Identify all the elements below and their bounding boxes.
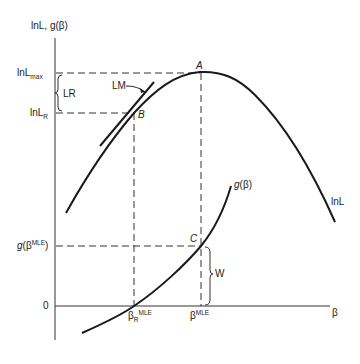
x-axis-label: β xyxy=(332,308,338,318)
lm-label: LM xyxy=(112,81,126,91)
w-text: W xyxy=(215,268,224,279)
lm-tangent-line xyxy=(100,82,154,146)
lr-label: LR xyxy=(63,89,76,99)
point-c-label: C xyxy=(190,234,197,244)
lnl-max-sub: max xyxy=(30,73,42,80)
lnl-curve-label-text: lnL xyxy=(331,196,344,207)
g-mle-post: ) xyxy=(45,240,48,251)
point-a-text: A xyxy=(196,60,203,71)
g-curve-label: g(β) xyxy=(234,180,252,190)
test-statistics-diagram xyxy=(0,0,360,364)
point-c-text: C xyxy=(190,233,197,244)
g-mle-label: g(βMLE) xyxy=(17,240,48,251)
lnl-curve-label: lnL xyxy=(331,197,344,207)
zero-label: 0 xyxy=(43,301,49,311)
point-b-label: B xyxy=(138,110,145,120)
lnl-max-base: lnL xyxy=(17,67,30,78)
w-label: W xyxy=(215,269,224,279)
y-axis-label: lnL, g(β) xyxy=(31,21,68,31)
beta-r-mle-sub: R xyxy=(134,316,139,323)
lm-text: LM xyxy=(112,80,126,91)
lnl-r-label: lnLR xyxy=(30,108,48,121)
lnl-r-sub: R xyxy=(43,113,48,120)
point-a-label: A xyxy=(196,61,203,71)
beta-mle-sup: MLE xyxy=(196,309,209,316)
beta-r-mle-label: βRMLE xyxy=(128,310,152,324)
point-b-text: B xyxy=(138,109,145,120)
lr-brace xyxy=(55,75,62,111)
zero-text: 0 xyxy=(43,300,49,311)
g-curve-label-post: (β) xyxy=(240,179,252,190)
beta-mle-label: βMLE xyxy=(190,310,209,321)
g-mle-sup: MLE xyxy=(32,239,45,246)
x-axis-label-text: β xyxy=(332,307,338,318)
w-brace xyxy=(205,247,213,305)
lnl-max-label: lnLmax xyxy=(17,68,43,81)
y-axis-label-text: lnL, g(β) xyxy=(31,20,68,31)
beta-r-mle-sup: MLE xyxy=(138,309,151,316)
lr-text: LR xyxy=(63,88,76,99)
g-mle-mid: (β xyxy=(23,240,32,251)
lnl-r-base: lnL xyxy=(30,107,43,118)
